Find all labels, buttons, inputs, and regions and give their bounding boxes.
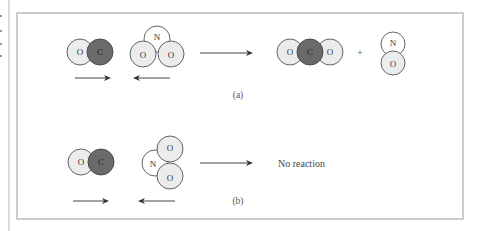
atom-label: O [167, 173, 174, 183]
motion-arrow-right-icon [73, 198, 109, 204]
reaction-arrow-icon [200, 160, 253, 166]
atom-label: N [154, 32, 161, 42]
reaction-arrow-icon [200, 50, 253, 56]
co-molecule-b: O C [68, 149, 114, 175]
motion-arrow-left-icon [138, 198, 175, 204]
panel-a-caption: (a) [233, 90, 244, 101]
motion-arrow-right-icon [75, 75, 111, 81]
plus-sign: + [357, 48, 362, 58]
no-molecule: N O [381, 32, 405, 75]
atom-label: C [98, 157, 104, 167]
atom-label: C [307, 47, 313, 57]
atom-label: C [97, 47, 103, 57]
co2-molecule: O C O [277, 39, 343, 65]
motion-arrow-left-icon [133, 75, 170, 81]
atom-label: O [327, 47, 334, 57]
atom-label: O [78, 157, 85, 167]
panel-b-caption: (b) [232, 196, 243, 207]
no-reaction-label: No reaction [278, 158, 325, 169]
panel-b: O C N O O No reaction (b) [68, 136, 325, 207]
atom-label: O [77, 47, 84, 57]
panel-a: O C N O O O [67, 26, 405, 101]
atom-label: O [140, 50, 147, 60]
no2-molecule-b: N O O [142, 136, 183, 189]
margin-text-fragments [0, 15, 2, 57]
atom-label: O [287, 47, 294, 57]
atom-label: N [390, 38, 397, 48]
no2-molecule-a: N O O [130, 26, 184, 67]
atom-label: O [168, 50, 175, 60]
atom-label: O [167, 143, 174, 153]
co-molecule-a: O C [67, 39, 113, 65]
atom-label: O [390, 59, 397, 69]
atom-label: N [150, 159, 157, 169]
collision-diagram: O C N O O O [0, 0, 478, 231]
